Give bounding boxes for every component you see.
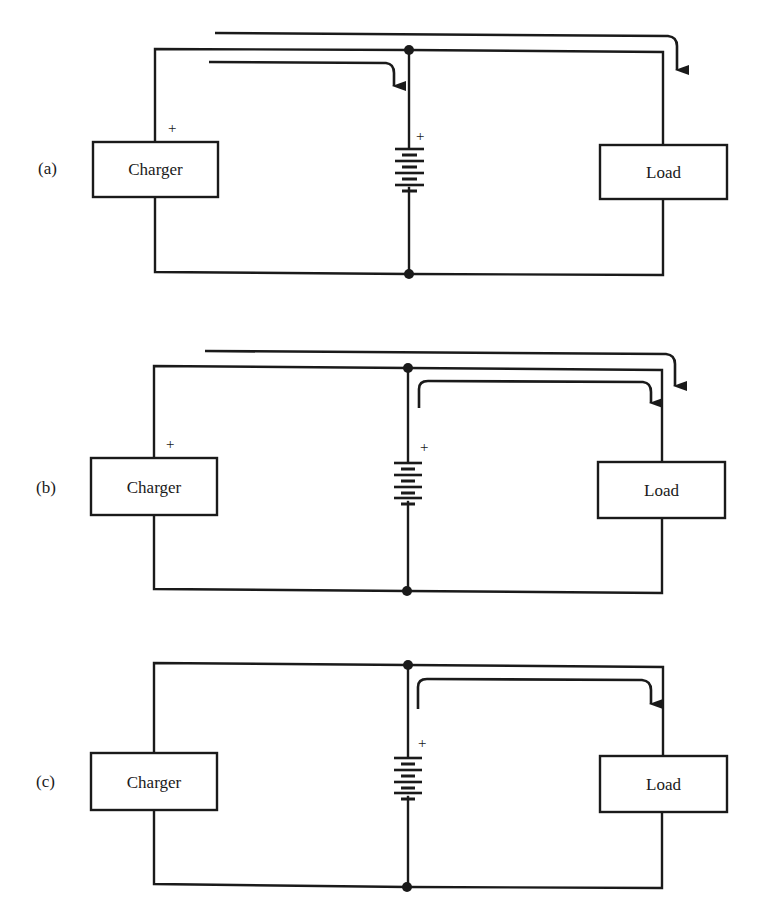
junction-node (404, 45, 414, 55)
current-arrow-charger-to-battery (209, 62, 394, 86)
panel-c: (c) + Charger Load (36, 660, 727, 892)
junction-node (402, 586, 412, 596)
panel-label: (a) (38, 159, 57, 178)
battery-plus-sign: + (418, 735, 426, 751)
battery-icon (395, 149, 424, 191)
charger-plus-sign: + (168, 120, 176, 136)
load-label: Load (646, 775, 681, 794)
junction-node (403, 660, 413, 670)
charger-plus-sign: + (166, 436, 174, 452)
charger-label: Charger (128, 160, 183, 179)
battery-plus-sign: + (420, 439, 428, 455)
current-arrow-battery-to-load (418, 679, 651, 709)
current-arrow-battery-to-load (419, 381, 651, 408)
panel-b: (b) + Charger + Load (36, 351, 725, 596)
load-label: Load (646, 163, 681, 182)
junction-node (403, 363, 413, 373)
battery-plus-sign: + (416, 128, 424, 144)
panel-a: (a) + Charger + Load (38, 33, 727, 279)
junction-node (404, 269, 414, 279)
charger-label: Charger (127, 773, 182, 792)
panel-label: (c) (36, 772, 55, 791)
circuit-figure: (a) + Charger + Load (b) (0, 0, 767, 921)
load-label: Load (644, 481, 679, 500)
battery-icon (394, 758, 422, 799)
charger-label: Charger (127, 478, 182, 497)
junction-node (402, 882, 412, 892)
panel-label: (b) (36, 478, 56, 497)
battery-icon (394, 463, 422, 504)
